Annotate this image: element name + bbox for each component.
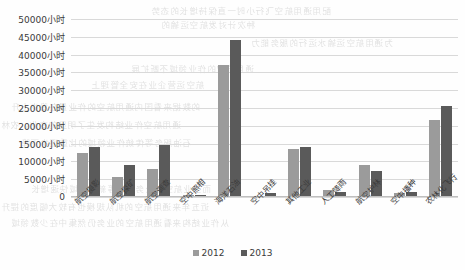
bar-2013-海洋石油[interactable]: [230, 40, 241, 197]
y-axis-tick-label: 35000小时: [18, 66, 65, 79]
bar-group: [141, 19, 176, 197]
bar-2012-海洋石油[interactable]: [218, 65, 229, 197]
y-axis-tick-label: 50000小时: [18, 13, 65, 26]
y-axis-tick-label: 15000小时: [18, 137, 65, 150]
bar-groups: [71, 19, 458, 197]
y-axis-tick-label: 30000小时: [18, 84, 65, 97]
bar-chart-container: 配用通用航空飞行小时一直保持增长的态势 种次计对发航空运输的 为通用航空运输水运…: [0, 0, 465, 270]
y-axis-tick-label: 5000小时: [24, 173, 65, 186]
legend-swatch-icon: [241, 250, 247, 256]
bar-group: [317, 19, 352, 197]
legend-item-2013[interactable]: 2013: [241, 248, 273, 258]
bar-group: [106, 19, 141, 197]
legend-swatch-icon: [193, 250, 199, 256]
bar-group: [177, 19, 212, 197]
legend-label: 2013: [250, 248, 273, 258]
x-axis-labels: 航空摄影航空探矿航空调查空中照相海洋石油空中吊挂其他工业人工降雨航空护林空中播种…: [71, 197, 458, 247]
chart-legend: 20122013: [0, 248, 465, 258]
bar-group: [388, 19, 423, 197]
legend-label: 2012: [202, 248, 225, 258]
y-axis-tick-label: 20000小时: [18, 119, 65, 132]
y-axis-tick-label: 10000小时: [18, 155, 65, 168]
bar-group: [212, 19, 247, 197]
plot-area: [71, 19, 458, 197]
y-axis-tick-label: 25000小时: [18, 102, 65, 115]
bar-group: [282, 19, 317, 197]
bar-group: [71, 19, 106, 197]
y-axis-tick-label: 40000小时: [18, 48, 65, 61]
bar-group: [423, 19, 458, 197]
y-axis-tick-label: 45000小时: [18, 30, 65, 43]
bleed-line: 配用通用航空飞行小时一直保持增长的态势: [150, 4, 331, 16]
legend-item-2012[interactable]: 2012: [193, 248, 225, 258]
y-axis-tick-label: 0: [59, 192, 65, 202]
bar-group: [247, 19, 282, 197]
bar-group: [353, 19, 388, 197]
y-axis-labels: 50000小时45000小时40000小时35000小时30000小时25000…: [0, 19, 68, 197]
